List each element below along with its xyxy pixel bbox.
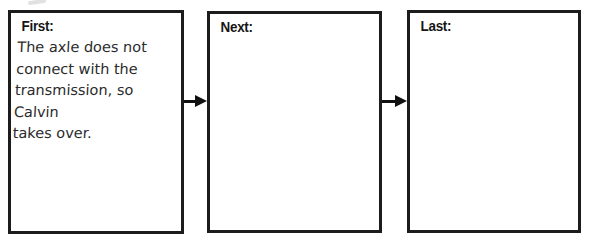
flow-arrow-next-to-last-icon (382, 95, 407, 107)
box-content-last (410, 34, 578, 37)
scan-artifact (28, 0, 46, 5)
box-label-last: Last: (410, 13, 571, 34)
sequence-box-first: First: The axle does not connect with th… (8, 10, 184, 234)
box-label-next: Next: (210, 14, 372, 35)
sequence-chart: First: The axle does not connect with th… (0, 0, 589, 244)
sequence-box-next: Next: (207, 11, 382, 233)
box-label-first: First: (11, 13, 174, 34)
box-content-next (210, 35, 379, 38)
arrow-head (195, 95, 207, 107)
arrow-head (395, 95, 407, 107)
flow-arrow-first-to-next-icon (184, 95, 207, 107)
sequence-box-last: Last: (407, 10, 581, 233)
box-content-first: The axle does not connect with the trans… (5, 34, 181, 145)
